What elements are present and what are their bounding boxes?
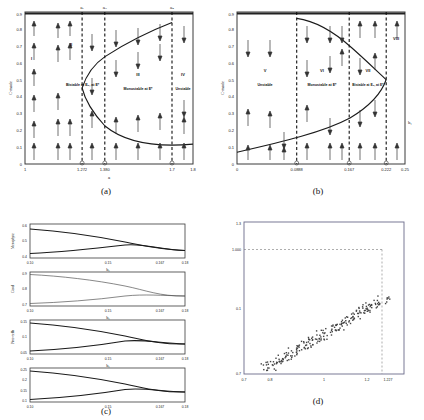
panel-c-ylabel-2: Pico-cells	[11, 329, 15, 344]
panel-a-xlabel: a	[108, 175, 111, 180]
panel-c-subplot-2: 0.15 0.1 0.05 Pico-cells 0.10 0.15 0.167…	[11, 320, 188, 369]
panel-d-svg: 1.3 1.000 0.1 0.7 0.7 0.8 1 1.2 1.227	[212, 210, 424, 420]
panel-b-xtick-3: 0.222	[381, 167, 392, 172]
panel-c-frame-1	[30, 272, 185, 306]
panel-b-ytick-4: 0.4	[228, 94, 234, 99]
panel-a-ytick-7: 0.7	[16, 44, 22, 49]
panel-b-xtick-4: 0.25	[401, 167, 410, 172]
panel-b-ytick-1: 0.1	[228, 145, 234, 150]
panel-c-caption: (c)	[0, 406, 212, 416]
panel-d-xtick-3: 1.2	[365, 378, 370, 382]
panel-a-ytick-5: 0.5	[16, 78, 22, 83]
panel-c-xtick-1-1: 0.15	[105, 309, 112, 313]
panel-d-ytick-1: 0.1	[236, 307, 241, 311]
panel-c-ytick-0-1: 0.5	[22, 239, 27, 243]
panel-c-ytick-3-2: 0.2	[22, 378, 27, 382]
panel-a-region-roman-3: IV	[181, 72, 185, 77]
panel-b-ytick-3: 0.3	[228, 111, 234, 116]
panel-c: 0.6 0.5 0.4 Mesophyte 0.10 0.15 0.167 0.…	[0, 210, 212, 420]
panel-c-xtick-2-2: 0.167	[156, 357, 165, 361]
panel-c-xtick-2-3: 0.18	[182, 357, 189, 361]
panel-b-ylabel: C-mode	[220, 81, 225, 95]
panel-d-xtick-2: 1	[323, 378, 325, 382]
panel-a-region-roman-0: I	[31, 56, 32, 61]
panel-c-xtick-1-3: 0.18	[182, 309, 189, 313]
panel-d-xtick-0: 0.7	[242, 378, 247, 382]
panel-b-xlabel: b₁	[408, 120, 412, 125]
panel-c-xtick-1-2: 0.167	[156, 309, 165, 313]
panel-c-ytick-3-1: 0.15	[20, 389, 27, 393]
panel-a-x-ticks: 1 1.272 1.380 1.7 1.8	[24, 167, 197, 172]
panel-a-xtick-0: 1	[24, 167, 27, 172]
panel-c-ytick-2-1: 0.1	[22, 335, 27, 339]
panel-a-top-marker-1: a₂	[103, 5, 107, 10]
panel-c-ylabel-1: Coral	[11, 285, 15, 293]
panel-c-xtick-0-2: 0.167	[156, 261, 165, 265]
panel-b-ytick-5: 0.5	[228, 78, 234, 83]
panel-c-ylabel-0: Mesophyte	[11, 233, 15, 249]
panel-c-ytick-1-0: 0.7	[22, 303, 27, 307]
panel-b-svg: V Unstable VI Monostable at E* VII Bista…	[212, 0, 424, 210]
panel-b-caption: (b)	[212, 186, 424, 196]
panel-a-xtick-2: 1.380	[100, 167, 111, 172]
panel-c-ytick-1-1: 0.8	[22, 287, 27, 291]
panel-b-xtick-0: 0	[236, 167, 239, 172]
panel-b-region-text-2: Bistable at E₀, at E*	[352, 83, 384, 87]
panel-a-svg: a₁ a₂ a₃ I II Bistable at E₀, at E* III …	[0, 0, 212, 210]
panel-b-plot: V Unstable VI Monostable at E* VII Bista…	[220, 12, 412, 173]
panel-a-ytick-2: 0.2	[16, 128, 22, 133]
panel-c-xtick-0-0: 0.10	[27, 261, 34, 265]
panel-a-ytick-6: 0.6	[16, 61, 22, 66]
panel-b-ytick-0: 0	[232, 162, 235, 167]
panel-b-region-roman-2: VII	[366, 68, 371, 73]
panel-c-ytick-1-2: 0.9	[22, 272, 27, 276]
panel-a-ylabel: C-mode	[8, 81, 13, 95]
panel-c-ytick-3-3: 0.25	[20, 368, 27, 372]
panel-c-xtick-2-0: 0.10	[27, 357, 34, 361]
panel-b-region-text-0: Unstable	[257, 83, 272, 87]
panel-a-y-ticks: 0 0.1 0.2 0.3 0.4 0.5 0.6 0.7 0.8 0.9	[16, 12, 22, 167]
panel-b-region-roman-0: V	[264, 68, 267, 73]
panel-c-xtick-2-1: 0.15	[105, 357, 112, 361]
panel-d-caption: (d)	[212, 396, 424, 406]
panel-a-region-text-3: Unstable	[175, 87, 190, 91]
panel-c-subplot-0: 0.6 0.5 0.4 Mesophyte 0.10 0.15 0.167 0.…	[11, 224, 188, 273]
panel-a-xtick-3: 1.7	[169, 167, 175, 172]
panel-a-ytick-0: 0	[20, 162, 23, 167]
panel-b-y-ticks: 0 0.1 0.2 0.3 0.4 0.5 0.6 0.7 0.8 0.9	[228, 12, 234, 167]
panel-c-ytick-2-0: 0.05	[20, 351, 27, 355]
panel-a-region-text-1: Bistable at E₀, at E*	[66, 83, 100, 87]
panel-a-top-marker-2: a₃	[170, 5, 174, 10]
panel-d-ytick-3: 1.3	[236, 222, 241, 226]
panel-b-xtick-1: 0.0888	[291, 167, 304, 172]
panel-d-ytick-2: 1.000	[232, 248, 241, 252]
panel-d-frame	[244, 222, 404, 374]
panel-a-top-marker-0: a₁	[80, 5, 84, 10]
panel-d-xtick-1: 0.8	[268, 378, 273, 382]
panel-a-region-roman-2: III	[136, 72, 139, 77]
panel-b-ytick-6: 0.6	[228, 61, 234, 66]
panel-a-ytick-8: 0.8	[16, 27, 22, 32]
panel-c-svg: 0.6 0.5 0.4 Mesophyte 0.10 0.15 0.167 0.…	[0, 210, 212, 420]
panel-a-xtick-4: 1.8	[190, 167, 196, 172]
panel-c-xlabel-1: b₁	[106, 315, 110, 320]
panel-a-region-text-2: Monostable at E*	[124, 87, 154, 91]
panel-c-xtick-1-0: 0.10	[27, 309, 34, 313]
panel-a-ytick-9: 0.9	[16, 12, 22, 17]
panel-a-frame	[25, 12, 193, 164]
panel-d-ytick-0: 0.7	[236, 372, 241, 376]
panel-b-ytick-2: 0.2	[228, 128, 234, 133]
panel-b-region-roman-3: VIII	[393, 36, 399, 41]
panel-b-frame	[237, 12, 405, 164]
panel-c-ytick-0-2: 0.6	[22, 224, 27, 228]
panel-c-xlabel-2: b₁	[106, 363, 110, 368]
panel-c-xlabel-0: b₁	[106, 267, 110, 272]
panel-a-ytick-4: 0.4	[16, 94, 22, 99]
panel-a: a₁ a₂ a₃ I II Bistable at E₀, at E* III …	[0, 0, 212, 210]
panel-a-xtick-1: 1.272	[77, 167, 88, 172]
panel-c-ytick-2-2: 0.15	[20, 320, 27, 324]
panel-c-frame-0	[30, 224, 185, 258]
panel-a-region-roman-1: II	[70, 42, 72, 47]
panel-b-ytick-8: 0.8	[228, 27, 234, 32]
panel-b-region-roman-1: VI	[320, 68, 324, 73]
